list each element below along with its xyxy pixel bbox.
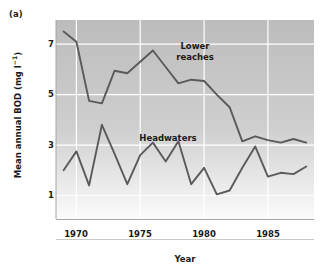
y-tick-label-5: 5 [28,89,54,99]
series-annotation-headwaters-line1: Headwaters [133,133,203,144]
series-annotation-headwaters: Headwaters [133,133,203,144]
y-tick-label-3: 3 [28,140,54,150]
x-tick-label-1985: 1985 [248,229,288,239]
x-tick-label-1980: 1980 [184,229,224,239]
x-tick-label-1970: 1970 [56,229,96,239]
y-tick-label-7: 7 [28,39,54,49]
y-tick-label-1: 1 [28,190,54,200]
series-annotation-lower-reaches: Lower reaches [164,41,226,63]
series-annotation-lower-reaches-line2: reaches [164,52,226,63]
figure-panel-a: (a) Mean annual BOD (mg l−1) Year [0,0,321,274]
x-tick-label-1975: 1975 [120,229,160,239]
series-annotation-lower-reaches-line1: Lower [164,41,226,52]
